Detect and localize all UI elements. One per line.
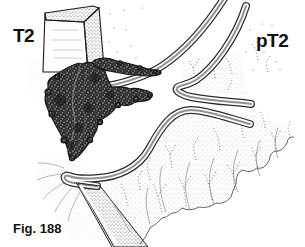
figure-caption: Fig. 188 [13,221,61,236]
tumor-mass [45,58,161,160]
stage-label-pt2: pT2 [256,31,288,50]
stage-label-t2: T2 [13,26,34,45]
sparse-dots-top [109,8,143,63]
figure-illustration: T2 pT2 Fig. 188 [0,0,305,247]
fat-tissue [104,109,294,244]
